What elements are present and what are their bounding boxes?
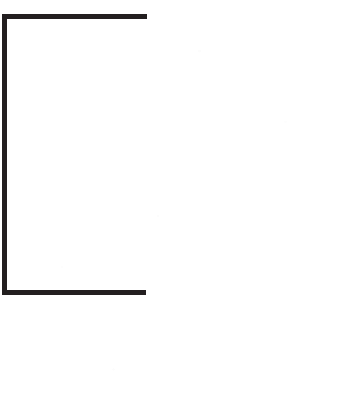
- drawing-canvas: Large open square bracket shape: [0, 0, 344, 393]
- page-background: [0, 0, 344, 393]
- bracket-figure: Large open square bracket shape: [0, 0, 344, 393]
